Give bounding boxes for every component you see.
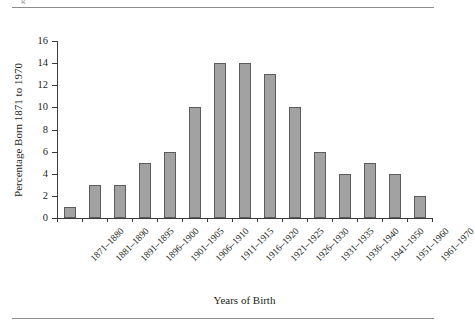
x-axis-line [57, 218, 432, 219]
x-tick-4 [157, 218, 158, 222]
y-tick-12 [52, 85, 57, 86]
bar [164, 152, 176, 218]
y-tick-label-4: 4 [30, 168, 48, 179]
y-tick-2 [52, 196, 57, 197]
y-tick-label-12: 12 [30, 79, 48, 90]
bar [139, 163, 151, 218]
bar [364, 163, 376, 218]
x-tick-9 [282, 218, 283, 222]
bar [89, 185, 101, 218]
y-tick-6 [52, 152, 57, 153]
y-axis-line [57, 41, 58, 219]
y-tick-label-14: 14 [30, 57, 48, 68]
x-tick-2 [107, 218, 108, 222]
bar [114, 185, 126, 218]
x-tick-15 [432, 218, 433, 222]
x-tick-13 [382, 218, 383, 222]
y-tick-label-6: 6 [30, 146, 48, 157]
y-axis-title: Percentage Born 1871 to 1970 [13, 63, 24, 197]
bar [289, 107, 301, 218]
clipped-text-fragment: g [21, 0, 30, 4]
y-tick-8 [52, 130, 57, 131]
x-tick-0 [57, 218, 58, 222]
y-tick-label-16: 16 [30, 35, 48, 46]
x-tick-11 [332, 218, 333, 222]
x-tick-6 [207, 218, 208, 222]
bar [339, 174, 351, 218]
x-tick-10 [307, 218, 308, 222]
x-tick-5 [182, 218, 183, 222]
bar [64, 207, 76, 218]
y-tick-label-8: 8 [30, 124, 48, 135]
bar [189, 107, 201, 218]
y-tick-label-0: 0 [30, 212, 48, 223]
x-tick-1 [82, 218, 83, 222]
page-rule-bottom [12, 318, 434, 319]
bar [239, 63, 251, 218]
y-tick-14 [52, 63, 57, 64]
bar [414, 196, 426, 218]
y-tick-4 [52, 174, 57, 175]
x-tick-12 [357, 218, 358, 222]
page-rule-top [12, 7, 434, 8]
x-tick-14 [407, 218, 408, 222]
x-axis-title: Years of Birth [57, 295, 432, 306]
y-tick-label-2: 2 [30, 190, 48, 201]
bar [314, 152, 326, 218]
x-tick-3 [132, 218, 133, 222]
x-tick-8 [257, 218, 258, 222]
x-tick-7 [232, 218, 233, 222]
y-tick-label-10: 10 [30, 101, 48, 112]
bar [264, 74, 276, 218]
bar [214, 63, 226, 218]
y-tick-10 [52, 107, 57, 108]
bar [389, 174, 401, 218]
y-tick-16 [52, 41, 57, 42]
